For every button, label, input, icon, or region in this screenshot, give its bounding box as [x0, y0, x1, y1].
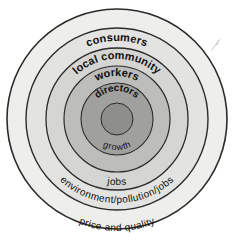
diagram-canvas: consumers local community workers direct…: [0, 0, 234, 240]
stray-pencil-mark-icon: [212, 40, 219, 50]
core-disc-shape: [101, 103, 133, 135]
ring-label-jobs: jobs: [106, 175, 127, 187]
ring-label-jobs-text: jobs: [106, 175, 127, 187]
concentric-circles-diagram: consumers local community workers direct…: [0, 0, 234, 240]
